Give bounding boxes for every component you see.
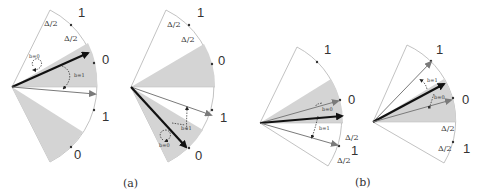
- label-1-top: 1: [78, 5, 85, 20]
- label-1-mid: 1: [102, 109, 109, 124]
- label-0-bottom: 0: [74, 147, 81, 162]
- label-b0: b=0: [29, 53, 40, 59]
- label-delta-outer: Δ/2: [44, 19, 58, 28]
- caption-a: (a): [123, 177, 138, 190]
- label-delta-inner: Δ/2: [64, 34, 78, 43]
- lattice-dot: [211, 109, 213, 111]
- label-0-mid: 0: [462, 92, 469, 107]
- label-b1: b=1: [427, 77, 438, 83]
- lattice-dot: [188, 147, 190, 149]
- label-b1: b=1: [319, 125, 330, 131]
- label-1-top: 1: [436, 42, 443, 57]
- label-1-top: 1: [324, 42, 331, 57]
- lattice-dot: [188, 24, 190, 26]
- label-b0: b=0: [322, 106, 333, 112]
- label-1-top: 1: [197, 5, 204, 20]
- label-0-mid: 0: [102, 52, 109, 67]
- panel-b1: 1 0 Δ/2 1 Δ/2 b=0 b=1: [260, 42, 359, 166]
- lattice-dot: [452, 141, 454, 143]
- label-0-mid: 0: [218, 53, 225, 68]
- lattice-dot: [211, 63, 213, 65]
- label-0-mid: 0: [348, 92, 355, 107]
- lattice-dot: [70, 146, 72, 148]
- label-0-bottom: 0: [195, 148, 202, 163]
- label-1-bottom: 1: [463, 141, 470, 156]
- label-b1: b=1: [74, 72, 85, 78]
- panel-b2: 1 0 Δ/2 Δ/2 1 b=1 b=0: [373, 42, 470, 163]
- label-delta-inner: Δ/2: [181, 35, 195, 44]
- label-delta-lower: Δ/2: [337, 156, 351, 165]
- lattice-dot: [316, 61, 318, 63]
- label-delta-outer: Δ/2: [167, 20, 181, 29]
- lattice-dot: [452, 97, 454, 99]
- label-delta-upper: Δ/2: [345, 133, 359, 142]
- panel-a1: 1 Δ/2 Δ/2 0 1 0 b=0 b=1: [12, 5, 109, 162]
- caption-b: (b): [355, 176, 371, 189]
- label-b1: b=1: [181, 125, 192, 131]
- label-1-bottom: 1: [351, 143, 358, 158]
- label-1-mid: 1: [220, 110, 227, 125]
- label-b0: b=0: [159, 142, 170, 148]
- lattice-dot: [430, 60, 432, 62]
- figure-canvas: 1 Δ/2 Δ/2 0 1 0 b=0 b=1 1 Δ/2 Δ/2 0 1 0 …: [0, 0, 477, 196]
- lattice-dot: [93, 109, 95, 111]
- label-delta-lower: Δ/2: [438, 144, 452, 153]
- panel-a2: 1 Δ/2 Δ/2 0 1 0 b=1 b=0: [131, 5, 227, 163]
- lattice-dot: [70, 24, 72, 26]
- label-b0: b=0: [434, 94, 445, 100]
- lattice-dot: [339, 99, 341, 101]
- label-delta-upper: Δ/2: [441, 124, 455, 133]
- lattice-dot: [338, 145, 340, 147]
- lattice-dot: [93, 62, 95, 64]
